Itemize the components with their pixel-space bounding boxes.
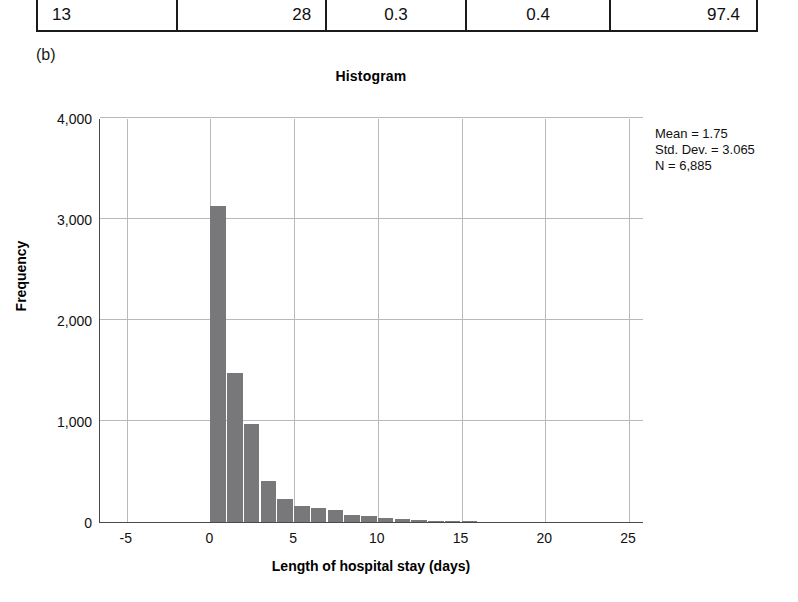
histogram-bar [361,516,377,522]
plot-area [99,119,643,523]
histogram-figure: Histogram 01,0002,0003,0004,000 -5051015… [0,0,798,602]
gridline-horizontal [100,420,643,421]
histogram-bar [428,521,444,523]
histogram-bar [395,519,411,522]
histogram-bar [462,521,478,522]
histogram-bar [277,499,293,522]
gridline-horizontal [100,218,643,219]
y-axis-tick-label: 4,000 [22,111,92,127]
stat-std-dev: Std. Dev. = 3.065 [655,142,755,158]
x-axis-tick-labels: -50510152025 [99,530,643,552]
histogram-bar [294,506,310,522]
chart-title: Histogram [99,68,643,84]
gridline-vertical [378,119,379,522]
histogram-bar [210,206,226,522]
x-axis-tick-label: 0 [179,530,239,546]
y-axis-tick-label: 1,000 [22,414,92,430]
x-axis-title: Length of hospital stay (days) [99,558,643,574]
x-axis-tick-label: 20 [514,530,574,546]
histogram-bar [261,481,277,522]
gridline-horizontal [100,319,643,320]
histogram-bar [244,424,260,522]
y-axis-tick-labels: 01,0002,0003,0004,000 [20,119,92,523]
stat-n: N = 6,885 [655,158,755,174]
gridline-vertical [462,119,463,522]
histogram-bar [411,520,427,522]
histogram-bar [227,373,243,522]
histogram-bar [445,521,461,522]
statistics-annotation: Mean = 1.75 Std. Dev. = 3.065 N = 6,885 [655,126,755,174]
gridline-vertical [127,119,128,522]
x-axis-tick-label: 15 [431,530,491,546]
x-axis-tick-label: -5 [96,530,156,546]
gridline-vertical [629,119,630,522]
histogram-bar [378,518,394,522]
y-axis-tick-label: 3,000 [22,212,92,228]
gridline-vertical [545,119,546,522]
y-axis-tick-label: 0 [22,515,92,531]
x-axis-tick-label: 25 [598,530,658,546]
gridline-horizontal [100,117,643,118]
x-axis-tick-label: 5 [263,530,323,546]
histogram-bar [311,508,327,522]
y-axis-title: Frequency [13,216,29,336]
histogram-bar [344,515,360,522]
gridline-vertical [294,119,295,522]
x-axis-tick-label: 10 [347,530,407,546]
histogram-bar [328,510,344,522]
stat-mean: Mean = 1.75 [655,126,755,142]
y-axis-tick-label: 2,000 [22,313,92,329]
